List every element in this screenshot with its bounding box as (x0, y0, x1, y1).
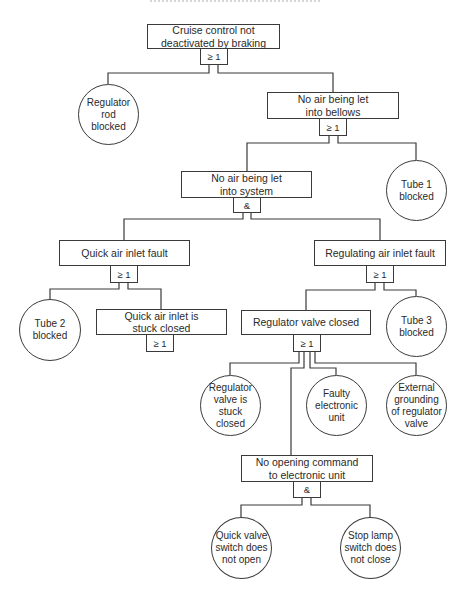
basic-event-tube-2-blocked: Tube 2 blocked (19, 299, 81, 361)
or-gate-icon: ≥ 1 (293, 334, 321, 352)
gate-symbol: ≥ 1 (117, 269, 130, 280)
basic-event-stop-lamp-switch: Stop lamp switch does not close (340, 517, 401, 579)
and-gate-icon: & (293, 481, 321, 498)
gate-symbol: ≥ 1 (207, 51, 220, 62)
or-gate-icon: ≥ 1 (366, 265, 394, 283)
gate-symbol: & (304, 484, 310, 495)
event-regulator-valve-closed: Regulator valve closed (241, 310, 371, 335)
event-no-air-into-bellows: No air being let into bellows (267, 92, 399, 119)
basic-event-label: Tube 3 blocked (399, 315, 433, 339)
basic-event-regulator-valve-stuck-closed: Regulator valve is stuck closed (200, 375, 261, 436)
event-regulating-air-inlet-fault: Regulating air inlet fault (314, 240, 446, 266)
or-gate-icon: ≥ 1 (110, 265, 138, 283)
event-no-air-into-system: No air being let into system (181, 171, 312, 198)
event-label: Quick air inlet is stuck closed (124, 310, 198, 335)
basic-event-regulator-rod-blocked: Regulator rod blocked (78, 84, 139, 145)
and-gate-icon: & (233, 197, 261, 213)
basic-event-label: Regulator valve is stuck closed (209, 382, 252, 430)
event-label: Quick air inlet fault (81, 247, 167, 260)
basic-event-external-grounding: External grounding of regulator valve (386, 375, 447, 436)
basic-event-label: Faulty electronic unit (315, 388, 358, 424)
gate-symbol: ≥ 1 (326, 122, 339, 133)
event-quick-air-inlet-fault: Quick air inlet fault (59, 240, 190, 266)
basic-event-tube-3-blocked: Tube 3 blocked (386, 296, 447, 357)
basic-event-label: Tube 1 blocked (399, 179, 433, 203)
basic-event-tube-1-blocked: Tube 1 blocked (386, 160, 447, 221)
or-gate-icon: ≥ 1 (200, 48, 228, 65)
event-label: Cruise control not deactivated by brakin… (161, 24, 266, 49)
event-label: No air being let into bellows (298, 93, 369, 118)
basic-event-label: Stop lamp switch does not close (344, 530, 396, 566)
gate-symbol: ≥ 1 (300, 338, 313, 349)
gate-symbol: ≥ 1 (373, 269, 386, 280)
event-no-opening-command: No opening command to electronic unit (241, 455, 373, 482)
event-label: No air being let into system (211, 172, 282, 197)
basic-event-label: Tube 2 blocked (33, 318, 67, 342)
gate-symbol: ≥ 1 (153, 338, 166, 349)
basic-event-faulty-electronic-unit: Faulty electronic unit (306, 375, 367, 436)
top-event-cruise-control-not-deactivated: Cruise control not deactivated by brakin… (147, 24, 280, 49)
or-gate-icon: ≥ 1 (319, 118, 347, 136)
basic-event-label: Quick valve switch does not open (215, 530, 267, 566)
fault-tree-diagram: Cruise control not deactivated by brakin… (0, 0, 470, 600)
basic-event-label: Regulator rod blocked (87, 97, 130, 133)
or-gate-icon: ≥ 1 (146, 334, 174, 352)
event-label: No opening command to electronic unit (256, 456, 359, 481)
event-label: Regulating air inlet fault (325, 247, 435, 260)
basic-event-quick-valve-switch: Quick valve switch does not open (211, 517, 272, 579)
event-quick-air-inlet-stuck-closed: Quick air inlet is stuck closed (96, 309, 227, 335)
event-label: Regulator valve closed (253, 316, 359, 329)
gate-symbol: & (244, 200, 250, 211)
basic-event-label: External grounding of regulator valve (391, 382, 442, 430)
